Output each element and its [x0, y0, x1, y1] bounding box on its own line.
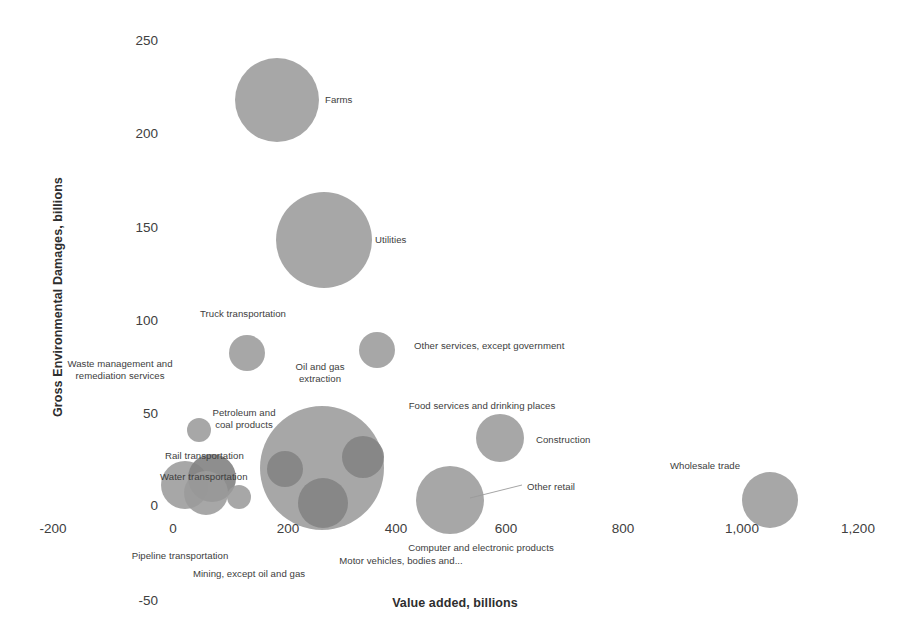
label-motor-vehicles: Motor vehicles, bodies and...	[339, 555, 463, 567]
bubble-chart: Gross Environmental Damages, billions Va…	[0, 0, 910, 643]
y-tick-3: 100	[100, 313, 158, 328]
label-utilities: Utilities	[375, 234, 406, 246]
bubble-petroleum-and-coal-products[interactable]	[187, 418, 211, 442]
y-tick-2: 150	[100, 220, 158, 235]
x-tick-5: 800	[612, 521, 635, 536]
bubble-inner-bubble-right[interactable]	[342, 436, 384, 478]
y-tick-5: 0	[100, 498, 158, 513]
y-tick-4: 50	[100, 406, 158, 421]
bubble-computer-and-electronic[interactable]	[416, 466, 484, 534]
y-axis-title: Gross Environmental Damages, billions	[51, 167, 65, 427]
label-oil-and-gas: Oil and gas extraction	[295, 361, 344, 384]
y-tick-0: 250	[100, 33, 158, 48]
x-tick-4: 600	[495, 521, 518, 536]
bubble-pipeline-transportation[interactable]	[227, 485, 251, 509]
y-tick-6: -50	[100, 593, 158, 608]
label-petroleum: Petroleum and coal products	[212, 407, 275, 430]
x-tick-3: 400	[385, 521, 408, 536]
x-tick-6: 1,000	[725, 521, 759, 536]
label-truck-transportation: Truck transportation	[200, 308, 286, 320]
label-computer-electronic: Computer and electronic products	[408, 542, 554, 554]
label-farms: Farms	[325, 94, 352, 106]
label-mining: Mining, except oil and gas	[193, 568, 305, 580]
label-wholesale-trade: Wholesale trade	[670, 460, 740, 472]
bubble-farms[interactable]	[235, 58, 319, 142]
bubble-utilities[interactable]	[276, 192, 372, 288]
label-waste-management: Waste management and remediation service…	[67, 358, 172, 381]
y-tick-1: 200	[100, 126, 158, 141]
label-pipeline: Pipeline transportation	[132, 550, 229, 562]
x-tick-1: 0	[169, 521, 177, 536]
x-tick-2: 200	[277, 521, 300, 536]
bubble-truck-transportation[interactable]	[229, 335, 265, 371]
bubble-inner-bubble-left[interactable]	[267, 451, 303, 487]
x-tick-0: -200	[39, 521, 66, 536]
label-construction: Construction	[536, 434, 590, 446]
bubble-motor-vehicles[interactable]	[298, 478, 348, 528]
label-other-retail: Other retail	[527, 481, 575, 493]
bubble-food-services[interactable]	[476, 414, 524, 462]
label-rail-transportation: Rail transportation	[165, 450, 244, 462]
label-water-transportation: Water transportation	[160, 471, 248, 483]
x-tick-7: 1,200	[841, 521, 875, 536]
bubble-other-services[interactable]	[359, 332, 395, 368]
label-other-services: Other services, except government	[414, 340, 564, 352]
label-food-services: Food services and drinking places	[409, 400, 556, 412]
